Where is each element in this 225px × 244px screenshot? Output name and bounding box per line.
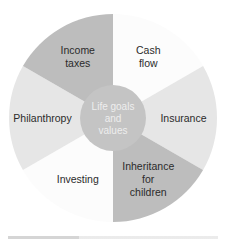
label-cash-flow: Cashflow <box>136 44 161 69</box>
label-income-taxes: Incometaxes <box>61 44 96 69</box>
label-investing: Investing <box>57 173 99 185</box>
label-insurance: Insurance <box>160 112 206 124</box>
life-goals-wheel: Life goalsandvalues CashflowInsuranceInh… <box>0 0 225 244</box>
label-philanthropy: Philanthropy <box>13 112 72 124</box>
footer-bar <box>8 236 218 239</box>
